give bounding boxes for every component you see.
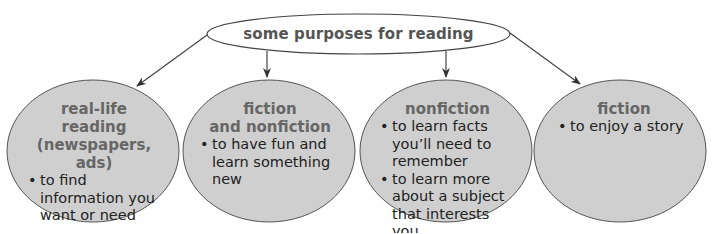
node-title-line: real-life reading [28,100,160,136]
node-title: nonfiction [380,100,515,118]
node-title: fiction and nonfiction [200,100,340,136]
node-bullet-list: to learn facts you’ll need to remember t… [380,118,515,233]
node-fiction-and-nonfiction: fiction and nonfiction to have fun and l… [200,100,340,189]
node-title-line: (newspapers, ads) [28,136,160,172]
node-title-line: and nonfiction [200,118,340,136]
node-bullet-item: to learn facts you’ll need to remember [380,118,515,171]
node-bullet-item: to have fun and learn something new [200,136,340,189]
node-real-life-reading: real-life reading (newspapers, ads) to f… [28,100,160,225]
node-bullet-list: to find information you want or need [28,172,160,225]
root-label: some purposes for reading [207,14,510,54]
node-title-line: nonfiction [380,100,515,118]
node-title-line: fiction [558,100,690,118]
node-title: real-life reading (newspapers, ads) [28,100,160,172]
node-bullet-item: to find information you want or need [28,172,160,225]
node-title: fiction [558,100,690,118]
node-fiction: fiction to enjoy a story [558,100,690,136]
node-bullet-list: to enjoy a story [558,118,690,136]
node-bullet-item: to learn more about a subject that inter… [380,171,515,234]
arrow-to-real-life-reading [137,35,207,86]
arrow-to-fiction [510,33,580,84]
node-nonfiction: nonfiction to learn facts you’ll need to… [380,100,515,233]
node-bullet-list: to have fun and learn something new [200,136,340,189]
node-title-line: fiction [200,100,340,118]
node-bullet-item: to enjoy a story [558,118,690,136]
